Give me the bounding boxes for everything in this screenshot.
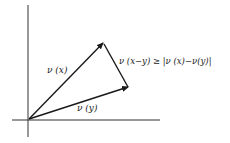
vector-diagram — [0, 0, 230, 143]
label-inequality: ν (x−y) ≥ |ν (x)−ν(y)| — [119, 57, 212, 66]
label-nu-y: ν (y) — [77, 104, 97, 113]
label-nu-x: ν (x) — [47, 66, 67, 75]
